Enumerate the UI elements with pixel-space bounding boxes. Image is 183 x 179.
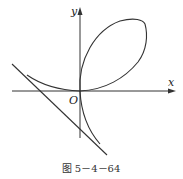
folium-loop	[80, 19, 147, 91]
y-axis-arrow-icon	[78, 7, 83, 15]
y-axis	[78, 7, 83, 138]
asymptote-line	[12, 64, 107, 155]
y-axis-label: y	[70, 5, 78, 18]
figure-caption: 图 5－4－64	[62, 163, 121, 174]
origin-label: O	[69, 94, 78, 107]
folium-diagram: y x O 图 5－4－64	[0, 0, 183, 179]
folium-lower-branch	[80, 91, 100, 144]
x-axis-label: x	[168, 76, 175, 89]
folium-left-branch	[27, 75, 80, 91]
x-axis-arrow-icon	[168, 89, 176, 94]
